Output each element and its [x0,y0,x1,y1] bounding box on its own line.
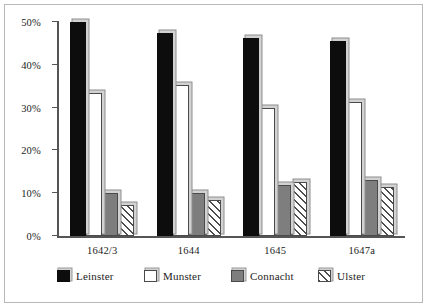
bar-munster-1644 [173,85,189,236]
y-axis-tick: 10% [52,192,59,193]
bar-ulster-1642-3 [118,205,134,236]
bar-connacht-1647a [362,180,378,236]
bar-set [243,22,307,236]
legend-swatch-munster-icon [144,270,157,282]
bar-group: 1647a [330,22,394,236]
legend-item-ulster[interactable]: Ulster [318,270,405,282]
legend-swatch-leinster-icon [57,270,70,282]
y-axis-tick-label: 10% [21,188,41,199]
legend-label: Leinster [76,270,114,282]
bar-leinster-1642-3 [70,22,86,236]
bar-ulster-1647a [378,187,394,236]
y-axis-tick: 20% [52,149,59,150]
x-axis-tick-label: 1642/3 [87,245,117,256]
y-axis-tick: 40% [52,64,59,65]
y-axis-tick-label: 40% [21,59,41,70]
bar-ulster-1645 [291,182,307,236]
bar-leinster-1645 [243,38,259,236]
bar-leinster-1647a [330,41,346,236]
bar-ulster-1644 [205,200,221,236]
y-axis-tick: 0% [52,235,59,236]
legend-item-munster[interactable]: Munster [144,270,231,282]
bar-set [157,22,221,236]
legend-swatch-ulster-icon [318,270,331,282]
legend-item-connacht[interactable]: Connacht [231,270,318,282]
bar-group: 1644 [157,22,221,236]
bar-group: 1645 [243,22,307,236]
bar-munster-1647a [346,102,362,236]
chart-figure: 0%10%20%30%40%50% 1642/3164416451647a Le… [0,0,427,307]
plot-area: 0%10%20%30%40%50% 1642/3164416451647a [57,22,405,238]
legend-label: Munster [163,270,201,282]
y-axis-tick-label: 30% [21,102,41,113]
chart-legend: LeinsterMunsterConnachtUlster [57,270,405,282]
legend-item-leinster[interactable]: Leinster [57,270,144,282]
bar-connacht-1644 [189,193,205,236]
x-axis-tick-label: 1644 [178,245,200,256]
x-axis-tick-label: 1647a [348,245,375,256]
y-axis-tick: 30% [52,107,59,108]
bar-connacht-1642-3 [102,193,118,236]
y-axis-tick: 50% [52,21,59,22]
bar-set [330,22,394,236]
x-axis-tick-label: 1645 [264,245,286,256]
y-axis-tick-label: 50% [21,17,41,28]
bar-connacht-1645 [275,185,291,236]
bar-munster-1645 [259,108,275,236]
y-axis-tick-label: 0% [27,231,41,242]
legend-swatch-connacht-icon [231,270,244,282]
legend-label: Connacht [250,270,294,282]
bar-leinster-1644 [157,33,173,236]
legend-label: Ulster [337,270,365,282]
bar-group: 1642/3 [70,22,134,236]
bar-set [70,22,134,236]
y-axis-tick-label: 20% [21,145,41,156]
bar-munster-1642-3 [86,93,102,236]
